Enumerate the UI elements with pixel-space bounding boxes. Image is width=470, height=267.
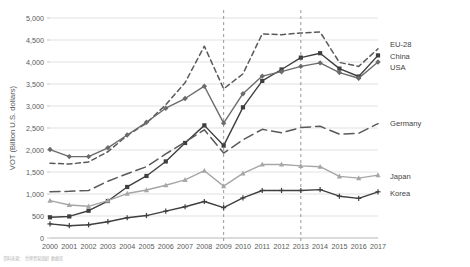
series-label-eu-28: EU-28 <box>390 40 412 49</box>
series-marker-china <box>376 53 380 57</box>
series-line-germany <box>50 124 378 192</box>
series-marker-china <box>202 123 206 127</box>
y-axis-title: VOT (Billion U.S. dollars) <box>8 85 17 170</box>
y-axis-tick-label: 2,000 <box>26 146 44 155</box>
series-marker-usa <box>67 154 72 159</box>
series-marker-korea <box>67 223 72 228</box>
x-axis-tick-label: 2008 <box>196 242 212 251</box>
x-axis-tick-label: 2005 <box>138 242 154 251</box>
series-marker-korea <box>356 196 361 201</box>
x-axis-tick-label: 2010 <box>235 242 251 251</box>
series-line-eu-28 <box>50 32 378 164</box>
line-chart: 05001,0001,5002,0002,5003,0003,5004,0004… <box>0 0 470 267</box>
series-marker-china <box>299 56 303 60</box>
series-marker-usa <box>298 64 303 69</box>
y-axis-tick-label: 3,000 <box>26 102 44 111</box>
x-axis-tick-label: 2004 <box>119 242 135 251</box>
series-label-germany: Germany <box>390 119 421 128</box>
series-marker-korea <box>182 204 187 209</box>
x-axis-tick-label: 2009 <box>216 242 232 251</box>
series-marker-korea <box>86 222 91 227</box>
series-marker-china <box>67 214 71 218</box>
x-axis-tick-label: 2002 <box>81 242 97 251</box>
y-axis-tick-label: 5,000 <box>26 14 44 23</box>
chart-source-caption: 资料来源： 世界贸易组织 数据库 <box>3 255 63 261</box>
chart-container: 05001,0001,5002,0002,5003,0003,5004,0004… <box>0 0 470 267</box>
y-axis-tick-label: 2,500 <box>26 124 44 133</box>
x-axis-tick-label: 2012 <box>274 242 290 251</box>
series-marker-korea <box>240 195 245 200</box>
series-label-china: China <box>390 52 411 61</box>
x-axis-tick-label: 2011 <box>255 242 270 251</box>
series-label-korea: Korea <box>390 189 411 198</box>
y-axis-tick-label: 1,000 <box>26 190 44 199</box>
y-axis-tick-label: 500 <box>32 212 44 221</box>
series-marker-korea <box>105 219 110 224</box>
series-label-japan: Japan <box>390 172 411 181</box>
series-marker-china <box>86 209 90 213</box>
x-axis-tick-label: 2006 <box>158 242 174 251</box>
series-marker-korea <box>163 209 168 214</box>
series-marker-korea <box>144 213 149 218</box>
series-marker-korea <box>279 188 284 193</box>
series-marker-usa <box>86 154 91 159</box>
series-marker-china <box>241 105 245 109</box>
series-label-usa: USA <box>390 63 407 72</box>
x-axis-tick-label: 2001 <box>61 242 77 251</box>
x-axis-tick-label: 2015 <box>331 242 347 251</box>
series-marker-japan <box>202 168 207 173</box>
x-axis-tick-label: 2017 <box>370 242 386 251</box>
x-axis-tick-label: 2013 <box>293 242 309 251</box>
series-marker-china <box>48 215 52 219</box>
series-marker-korea <box>221 205 226 210</box>
x-axis-tick-label: 2003 <box>100 242 116 251</box>
series-marker-china <box>125 185 129 189</box>
y-axis-tick-label: 3,500 <box>26 80 44 89</box>
series-marker-korea <box>47 221 52 226</box>
series-marker-korea <box>260 188 265 193</box>
series-marker-china <box>144 174 148 178</box>
series-marker-china <box>260 79 264 83</box>
x-axis-tick-label: 2007 <box>177 242 193 251</box>
y-axis-tick-label: 4,000 <box>26 58 44 67</box>
series-marker-china <box>164 159 168 163</box>
series-marker-usa <box>47 147 52 152</box>
x-axis-tick-label: 2000 <box>42 242 58 251</box>
y-axis-tick-label: 4,500 <box>26 36 44 45</box>
series-marker-usa <box>317 60 322 65</box>
series-marker-china <box>318 51 322 55</box>
y-axis-tick-label: 1,500 <box>26 168 44 177</box>
series-marker-japan <box>47 198 52 203</box>
series-marker-korea <box>298 188 303 193</box>
x-axis-tick-label: 2016 <box>351 242 367 251</box>
series-marker-korea <box>202 199 207 204</box>
series-line-korea <box>50 190 378 226</box>
series-marker-korea <box>318 187 323 192</box>
x-axis-tick-label: 2014 <box>312 242 328 251</box>
series-marker-china <box>222 144 226 148</box>
